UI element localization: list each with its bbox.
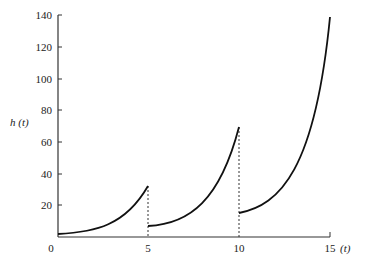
x-tick-0: 0 <box>48 242 54 254</box>
y-tick-60: 60 <box>41 136 53 148</box>
x-tick-10: 10 <box>234 242 246 254</box>
chart: 140 120 100 80 60 40 20 h (t) 0 5 10 15 … <box>0 0 365 259</box>
y-tick-120: 120 <box>36 41 53 53</box>
curve-segment-2 <box>148 127 239 226</box>
y-tick-20: 20 <box>41 199 53 211</box>
y-axis-label: h (t) <box>10 116 29 129</box>
y-tick-100: 100 <box>36 73 53 85</box>
y-tick-40: 40 <box>41 168 53 180</box>
x-tick-15: 15 <box>325 242 337 254</box>
y-tick-140: 140 <box>36 9 53 21</box>
x-axis-label: (t) <box>340 242 351 255</box>
y-ticks <box>58 15 330 237</box>
x-tick-5: 5 <box>145 242 151 254</box>
curve-segment-3 <box>239 17 330 213</box>
curve-segment-1 <box>58 186 148 234</box>
y-tick-80: 80 <box>41 104 53 116</box>
